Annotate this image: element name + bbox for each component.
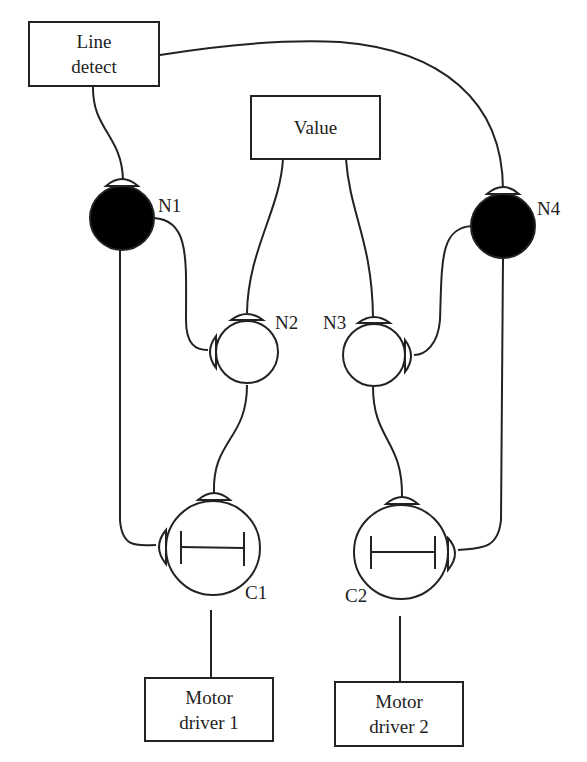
connection-linedetect-n1 <box>93 86 123 180</box>
neuron-label-n2: N2 <box>275 312 298 334</box>
synapse-icon <box>231 314 263 320</box>
connection-n1-n2 <box>154 218 208 350</box>
line-detect-line2: detect <box>71 54 116 79</box>
connection-n2-c1 <box>214 385 247 493</box>
neuron-n1 <box>90 179 154 250</box>
value-box: Value <box>250 95 381 160</box>
neuron-n3 <box>343 317 411 386</box>
connection-value-n2 <box>247 159 283 313</box>
value-label: Value <box>294 115 337 140</box>
motor-driver-2-box: Motor driver 2 <box>334 681 464 747</box>
motor-driver-1-box: Motor driver 1 <box>144 677 274 742</box>
neuron-label-c2: C2 <box>345 585 367 607</box>
neuron-c1 <box>159 493 260 595</box>
neuron-label-n1: N1 <box>158 195 181 217</box>
synapse-icon <box>159 530 166 564</box>
motor2-line2: driver 2 <box>369 714 429 739</box>
synapse-icon <box>448 538 455 570</box>
line-detect-line1: Line <box>77 29 112 54</box>
motor2-line1: Motor <box>375 689 423 714</box>
neuron-label-n3: N3 <box>323 312 346 334</box>
connection-n4-c2 <box>458 258 503 550</box>
neuron-n2 <box>210 314 278 383</box>
connection-n4-n3 <box>414 226 472 355</box>
synapse-icon <box>198 493 230 500</box>
synapse-icon <box>106 179 138 186</box>
neuron-label-n4: N4 <box>537 198 560 220</box>
neuron-c2 <box>354 497 455 599</box>
connection-value-n3 <box>346 159 373 317</box>
motor1-line1: Motor <box>185 685 233 710</box>
connection-n3-c2 <box>373 387 402 497</box>
neuron-n4 <box>471 187 535 258</box>
synapse-icon <box>386 497 418 504</box>
line-detect-box: Line detect <box>28 21 160 87</box>
connection-n1-c1 <box>120 250 156 545</box>
synapse-icon <box>487 187 519 194</box>
motor1-line2: driver 1 <box>179 710 239 735</box>
neuron-label-c1: C1 <box>245 582 267 604</box>
synapse-icon <box>358 317 390 323</box>
